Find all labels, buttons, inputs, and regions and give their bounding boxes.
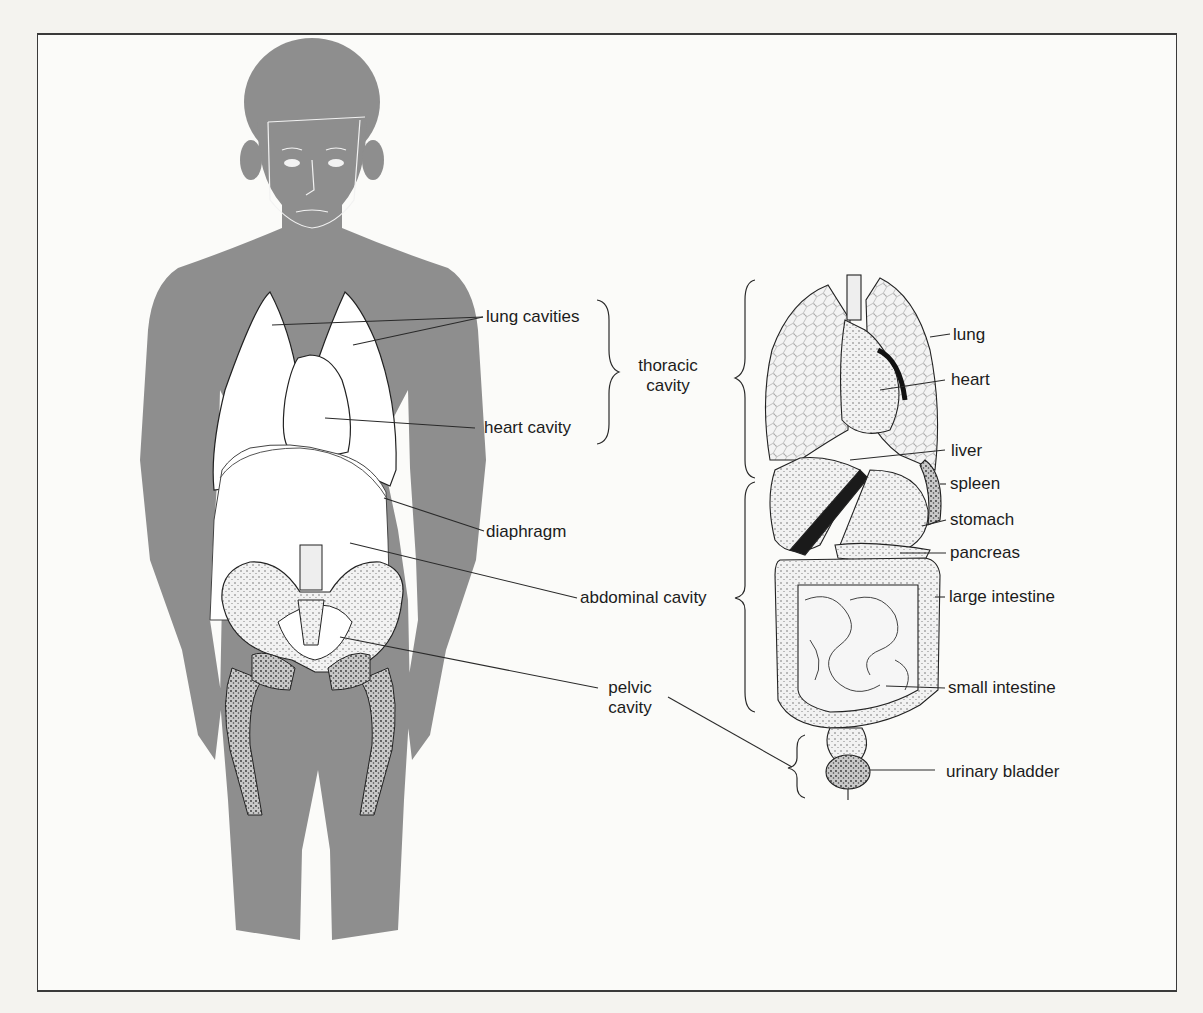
thoracic-brace-left <box>597 300 619 444</box>
label-diaphragm: diaphragm <box>486 522 566 542</box>
label-stomach: stomach <box>950 510 1014 530</box>
label-lung: lung <box>953 325 985 345</box>
abdominal-brace <box>735 482 755 712</box>
label-pancreas: pancreas <box>950 543 1020 563</box>
label-pelvic-cavity: pelvic cavity <box>600 678 660 718</box>
label-thoracic-line2: cavity <box>628 376 708 396</box>
label-pelvic-line2: cavity <box>600 698 660 718</box>
thoracic-brace-right <box>735 280 755 478</box>
anatomy-illustration <box>0 0 1203 1013</box>
label-heart-cavity: heart cavity <box>484 418 571 438</box>
label-lung-cavities: lung cavities <box>486 307 580 327</box>
label-small-intestine: small intestine <box>948 678 1056 698</box>
label-heart: heart <box>951 370 990 390</box>
label-abdominal-cavity: abdominal cavity <box>580 588 707 608</box>
urinary-bladder-organ <box>826 755 870 789</box>
organs-illustration <box>765 275 941 800</box>
label-spleen: spleen <box>950 474 1000 494</box>
label-urinary-bladder: urinary bladder <box>946 762 1059 782</box>
label-pelvic-line1: pelvic <box>600 678 660 698</box>
label-liver: liver <box>951 441 982 461</box>
label-large-intestine: large intestine <box>949 587 1055 607</box>
label-thoracic-line1: thoracic <box>628 356 708 376</box>
label-thoracic-cavity: thoracic cavity <box>628 356 708 396</box>
small-intestine-organ <box>798 585 918 712</box>
left-lung <box>765 285 850 460</box>
